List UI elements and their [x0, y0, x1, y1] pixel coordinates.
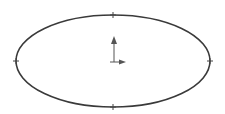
left-point-marker[interactable] [13, 58, 19, 64]
top-point-marker[interactable] [110, 12, 116, 18]
sketch-canvas[interactable] [0, 0, 225, 114]
origin-axes-icon [110, 36, 126, 65]
right-point-marker[interactable] [207, 58, 213, 64]
bottom-point-marker[interactable] [110, 104, 116, 110]
ellipse-sketch[interactable] [16, 15, 210, 107]
